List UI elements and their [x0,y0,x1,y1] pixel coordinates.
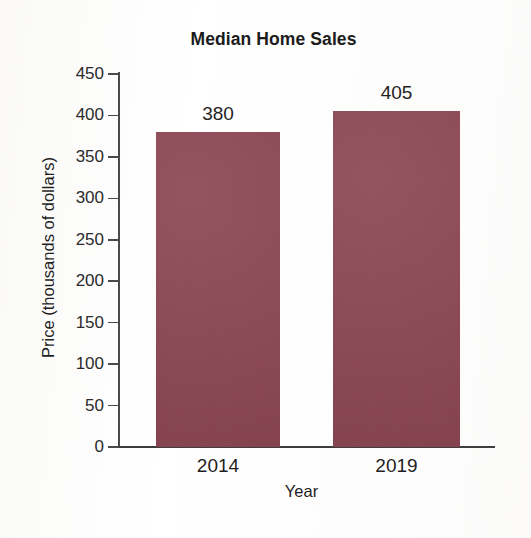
y-axis-tick-label: 100 [60,354,104,374]
y-axis-tick-label: 350 [60,147,104,167]
y-axis-spine [118,72,120,448]
y-axis-tick [108,156,119,158]
y-axis-tick-label: 400 [60,105,104,125]
y-axis-tick [108,73,119,75]
x-axis-title: Year [0,482,531,501]
y-axis-tick [108,363,119,365]
y-axis-tick-label: 150 [60,313,104,333]
bar-value-label: 405 [381,82,413,104]
y-axis-tick-label: 300 [60,188,104,208]
bar [333,111,460,447]
y-axis-tick [108,239,119,241]
y-axis-tick [108,198,119,200]
bar-value-label: 380 [202,103,234,125]
y-axis-tick [108,115,119,117]
y-axis-tick-label: 450 [60,64,104,84]
x-axis-tick-label: 2019 [375,455,417,477]
bar [156,132,280,447]
y-axis-tick [108,405,119,407]
chart-title: Median Home Sales [0,29,531,50]
chart-figure: Median Home Sales 0501001502002503003504… [0,0,531,538]
y-axis-tick-label: 250 [60,230,104,250]
y-axis-tick-label: 50 [60,396,104,416]
y-axis-tick-label: 0 [60,437,104,457]
y-axis-tick [108,322,119,324]
y-axis-tick-label: 200 [60,271,104,291]
y-axis-title: Price (thousands of dollars) [39,108,58,408]
y-axis-tick [108,280,119,282]
y-axis-tick [108,446,119,448]
x-axis-tick-label: 2014 [197,455,239,477]
